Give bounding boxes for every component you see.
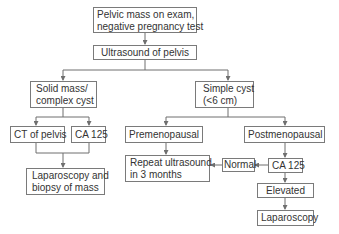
node-text: CT of pelvis <box>14 129 61 141</box>
node-ca125-left: CA 125 <box>71 126 106 143</box>
node-text: complex cyst <box>36 95 93 107</box>
node-ct-pelvis: CT of pelvis <box>10 126 65 143</box>
node-text: Normal <box>224 159 253 171</box>
node-laparoscopy: Laparoscopy <box>257 210 314 226</box>
node-postmenopausal: Postmenopausal <box>244 126 325 143</box>
node-text: Ultrasound of pelvis <box>97 47 193 59</box>
node-elevated: Elevated <box>257 183 314 198</box>
node-text: Elevated <box>261 185 310 197</box>
node-text: Postmenopausal <box>248 129 321 141</box>
node-text: in 3 months <box>130 169 206 181</box>
node-premenopausal: Premenopausal <box>125 126 203 143</box>
node-normal: Normal <box>222 158 255 172</box>
node-text: biopsy of mass <box>32 182 101 194</box>
node-pelvic-mass: Pelvic mass on exam, negative pregnancy … <box>93 7 197 33</box>
node-laparoscopy-biopsy: Laparoscopy and biopsy of mass <box>26 168 105 195</box>
node-solid-mass: Solid mass/ complex cyst <box>30 81 97 108</box>
node-text: Repeat ultrasound <box>130 157 206 169</box>
connector-lines <box>0 0 339 234</box>
node-text: Solid mass/ <box>36 83 93 95</box>
node-text: negative pregnancy test <box>97 21 193 33</box>
node-text: (<6 cm) <box>203 95 250 107</box>
node-ca125-right: CA 125 <box>268 158 303 173</box>
node-text: Pelvic mass on exam, <box>97 9 193 21</box>
node-text: Laparoscopy and <box>32 170 101 182</box>
node-text: Simple cyst <box>203 83 250 95</box>
node-text: CA 125 <box>272 160 299 172</box>
node-text: Laparoscopy <box>261 212 310 224</box>
node-simple-cyst: Simple cyst (<6 cm) <box>195 81 254 108</box>
node-ultrasound: Ultrasound of pelvis <box>93 45 197 60</box>
node-text: CA 125 <box>75 129 102 141</box>
node-repeat-ultrasound: Repeat ultrasound in 3 months <box>125 155 210 182</box>
node-text: Premenopausal <box>129 129 199 141</box>
